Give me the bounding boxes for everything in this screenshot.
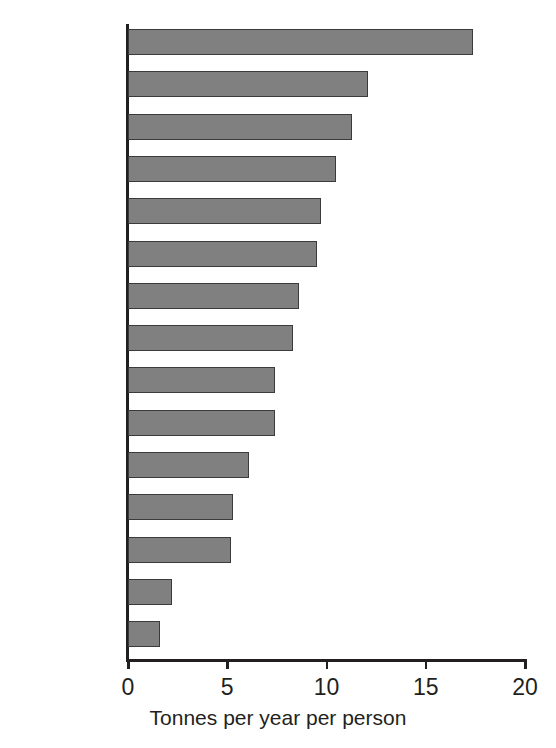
bar-row: Germany — [128, 198, 525, 224]
bar-india — [128, 621, 160, 647]
bar-poland — [128, 325, 293, 351]
bar-row: China — [128, 537, 525, 563]
x-tick-label: 15 — [413, 672, 439, 702]
bar-row: France — [128, 452, 525, 478]
bar-spain — [128, 410, 275, 436]
bar-sweden — [128, 494, 233, 520]
bar-russia — [128, 71, 368, 97]
x-tick — [226, 659, 229, 669]
bar-japan — [128, 241, 317, 267]
bar-row: Russia — [128, 71, 525, 97]
x-axis-title: Tonnes per year per person — [0, 706, 556, 730]
bar-row: India — [128, 621, 525, 647]
bar-uk — [128, 283, 299, 309]
bar-china — [128, 537, 231, 563]
bar-row: Italy — [128, 367, 525, 393]
bar-row: Netherlands — [128, 156, 525, 182]
x-tick — [127, 659, 130, 669]
x-tick — [425, 659, 428, 669]
x-tick — [524, 659, 527, 669]
x-tick-label: 20 — [512, 672, 538, 702]
x-tick-label: 0 — [122, 672, 135, 702]
bar-us — [128, 29, 473, 55]
x-tick-label: 10 — [314, 672, 340, 702]
chart-title — [0, 0, 556, 2]
bar-row: Poland — [128, 325, 525, 351]
bar-row: Sweden — [128, 494, 525, 520]
bar-france — [128, 452, 249, 478]
x-tick — [326, 659, 329, 669]
bar-row: UK — [128, 283, 525, 309]
plot-area: USRussiaCzech Rep.NetherlandsGermanyJapa… — [128, 24, 525, 660]
bar-czech-rep — [128, 114, 352, 140]
bar-row: Czech Rep. — [128, 114, 525, 140]
x-tick-label: 5 — [221, 672, 234, 702]
bar-germany — [128, 198, 321, 224]
bar-row: Spain — [128, 410, 525, 436]
bar-row: Brazil — [128, 579, 525, 605]
bar-chart: USRussiaCzech Rep.NetherlandsGermanyJapa… — [0, 0, 556, 748]
bar-brazil — [128, 579, 172, 605]
bar-italy — [128, 367, 275, 393]
bar-netherlands — [128, 156, 336, 182]
bar-row: US — [128, 29, 525, 55]
bar-row: Japan — [128, 241, 525, 267]
